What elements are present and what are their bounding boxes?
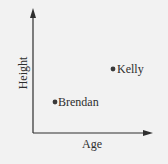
data-point-kelly [111,67,116,72]
x-axis-label: Age [82,137,102,151]
chart-canvas: Height Age Kelly Brendan [0,0,168,164]
y-axis-label: Height [16,56,30,89]
point-label-kelly: Kelly [117,62,144,76]
point-label-brendan: Brendan [58,95,99,109]
data-point-brendan [53,100,58,105]
scatter-chart: Height Age Kelly Brendan [0,0,168,164]
y-axis-arrow-icon [30,8,36,18]
x-axis-arrow-icon [143,130,153,136]
